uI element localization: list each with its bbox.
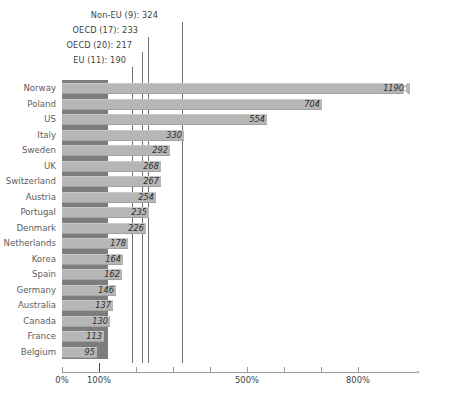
plot-area: Norway 1190 Poland 704 US 554 Italy 330 … (0, 0, 460, 406)
x-tick-700 (321, 367, 322, 372)
bar-row: 1190 (62, 83, 460, 94)
x-tick-0 (62, 367, 63, 372)
category-label: UK (0, 161, 56, 172)
category-label: Korea (0, 254, 56, 265)
value-label: 704 (268, 99, 320, 110)
category-label: France (0, 331, 56, 342)
x-tick-600 (284, 367, 285, 372)
value-label: 146 (62, 285, 114, 296)
category-label: US (0, 114, 56, 125)
bar-row: 254 (62, 192, 460, 203)
x-tick-100 (99, 363, 100, 372)
value-label: 267 (107, 176, 159, 187)
bar-chart: Non-EU (9): 324 OECD (17): 233 OECD (20)… (0, 0, 460, 406)
category-label: Switzerland (0, 176, 56, 187)
category-label: Portugal (0, 207, 56, 218)
value-label: 235 (95, 207, 147, 218)
value-label: 226 (92, 223, 144, 234)
bar-row: 113 (62, 331, 460, 342)
value-label: 113 (53, 331, 102, 342)
x-axis-arrow (417, 371, 420, 373)
x-tick-label-500: 500% (229, 375, 265, 385)
category-label: Sweden (0, 145, 56, 156)
bar-row: 178 (62, 238, 460, 249)
value-label: 130 (58, 316, 108, 327)
category-label: Germany (0, 285, 56, 296)
bar-row: 164 (62, 254, 460, 265)
value-label: 137 (60, 300, 111, 311)
bar-row: 146 (62, 285, 460, 296)
bar-row: 235 (62, 207, 460, 218)
value-label: 95 (48, 347, 95, 358)
x-tick-500 (247, 367, 248, 372)
value-label: 178 (74, 238, 126, 249)
category-label: Austria (0, 192, 56, 203)
bar-row: 292 (62, 145, 460, 156)
bar-row: 95 (62, 347, 460, 358)
x-tick-200 (136, 367, 137, 372)
x-axis-line (62, 372, 417, 373)
value-label: 164 (69, 254, 121, 265)
value-label: 554 (213, 114, 265, 125)
x-tick-400 (210, 367, 211, 372)
x-tick-label-0: 0% (48, 375, 76, 385)
value-label: 254 (102, 192, 154, 203)
value-label: 330 (130, 130, 182, 141)
category-label: Poland (0, 99, 56, 110)
category-label: Norway (0, 83, 56, 94)
value-label: 268 (107, 161, 159, 172)
category-label: Denmark (0, 223, 56, 234)
value-label: 162 (68, 269, 120, 280)
bar-row: 137 (62, 300, 460, 311)
category-label: Spain (0, 269, 56, 280)
x-tick-label-800: 800% (340, 375, 376, 385)
bar-row: 130 (62, 316, 460, 327)
x-tick-300 (173, 367, 174, 372)
category-label: Canada (0, 316, 56, 327)
bar-row: 268 (62, 161, 460, 172)
bar-row: 267 (62, 176, 460, 187)
bar-row: 330 (62, 130, 460, 141)
value-label: 1190 (352, 83, 404, 94)
x-tick-800 (358, 367, 359, 372)
bar-row: 162 (62, 269, 460, 280)
category-label: Italy (0, 130, 56, 141)
bar-row: 226 (62, 223, 460, 234)
value-label: 292 (116, 145, 168, 156)
category-label: Netherlands (0, 238, 56, 249)
bar-row: 704 (62, 99, 460, 110)
x-tick-label-100: 100% (81, 375, 117, 385)
category-label: Australia (0, 300, 56, 311)
bar-row: 554 (62, 114, 460, 125)
